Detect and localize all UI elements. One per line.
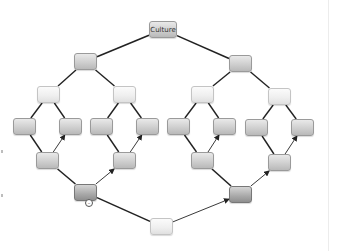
diagram-node[interactable]	[36, 152, 59, 169]
connector-line	[131, 103, 142, 118]
connector-line	[97, 35, 149, 56]
connector-line	[185, 135, 197, 152]
panel-divider	[328, 0, 329, 251]
connector-line	[107, 135, 119, 152]
connector-line	[213, 72, 230, 86]
arrow-connector	[53, 135, 65, 152]
diagram-node[interactable]	[59, 118, 82, 135]
arrow-connector	[208, 135, 219, 152]
collapse-toggle-icon[interactable]: –	[85, 199, 93, 207]
clipped-text-fragment	[1, 194, 3, 197]
diagram-node[interactable]	[268, 154, 291, 171]
connector-line	[58, 169, 76, 184]
connector-line	[208, 103, 218, 118]
connector-line	[54, 103, 64, 118]
arrow-connector	[130, 135, 142, 152]
connector-line	[30, 135, 42, 152]
connector-line	[286, 105, 296, 119]
diagram-node[interactable]	[229, 186, 252, 203]
diagram-node[interactable]	[13, 118, 36, 135]
diagram-node[interactable]	[74, 53, 97, 70]
clipped-text-fragment	[1, 150, 3, 153]
arrow-connector	[251, 171, 269, 186]
diagram-node[interactable]	[191, 152, 214, 169]
connector-line	[58, 70, 76, 86]
diagram-node[interactable]	[213, 118, 236, 135]
diagram-node[interactable]	[136, 118, 159, 135]
connector-line	[251, 72, 270, 88]
connector-line	[263, 105, 273, 119]
root-node[interactable]: Culture	[149, 21, 177, 38]
diagram-node[interactable]	[191, 86, 214, 103]
diagram-node[interactable]	[113, 86, 136, 103]
diagram-node[interactable]	[150, 218, 173, 235]
diagram-node[interactable]	[229, 55, 252, 72]
connector-line	[262, 136, 274, 154]
diagram-node[interactable]	[90, 118, 113, 135]
connector-line	[212, 169, 231, 186]
diagram-node[interactable]	[113, 152, 136, 169]
connector-line	[97, 198, 150, 222]
connector-line	[108, 103, 119, 118]
arrow-connector	[173, 199, 229, 222]
arrow-connector	[285, 136, 297, 154]
diagram-node[interactable]	[74, 184, 97, 201]
connector-line	[177, 36, 229, 59]
diagram-node[interactable]	[291, 119, 314, 136]
arrow-connector	[96, 169, 114, 184]
connector-line	[31, 103, 42, 118]
diagram-node[interactable]	[167, 118, 190, 135]
diagram-node[interactable]	[268, 88, 291, 105]
connector-line	[185, 103, 196, 118]
diagram-node[interactable]	[245, 119, 268, 136]
diagram-node[interactable]	[37, 86, 60, 103]
connector-line	[96, 70, 115, 86]
